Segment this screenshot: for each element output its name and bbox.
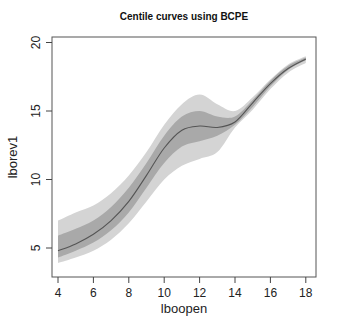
centile-bands — [58, 56, 306, 263]
x-tick-label: 14 — [228, 286, 242, 300]
x-tick-label: 16 — [264, 286, 278, 300]
x-tick-label: 4 — [55, 286, 62, 300]
x-tick-label: 18 — [299, 286, 313, 300]
y-tick-label: 10 — [29, 173, 43, 187]
x-tick-label: 12 — [193, 286, 207, 300]
chart-title: Centile curves using BCPE — [120, 11, 249, 22]
y-tick-label: 5 — [29, 244, 43, 251]
x-axis-label: lboopen — [161, 301, 207, 316]
x-tick-label: 10 — [158, 286, 172, 300]
x-axis: 4681012141618 — [55, 277, 313, 300]
x-tick-label: 8 — [125, 286, 132, 300]
y-axis-label: lborev1 — [5, 136, 20, 179]
y-tick-label: 15 — [29, 104, 43, 118]
centile-chart: Centile curves using BCPE 4681012141618 … — [0, 0, 338, 331]
y-tick-label: 20 — [29, 36, 43, 50]
x-tick-label: 6 — [90, 286, 97, 300]
y-axis: 5101520 — [29, 36, 52, 252]
